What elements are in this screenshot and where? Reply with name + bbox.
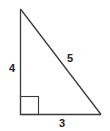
vertical-leg-label: 4 bbox=[9, 62, 16, 74]
hypotenuse-label: 5 bbox=[67, 52, 73, 64]
hypotenuse bbox=[21, 9, 102, 115]
horizontal-leg-label: 3 bbox=[59, 117, 65, 129]
right-triangle-diagram: 4 3 5 bbox=[0, 0, 110, 131]
right-angle-marker bbox=[21, 97, 39, 115]
